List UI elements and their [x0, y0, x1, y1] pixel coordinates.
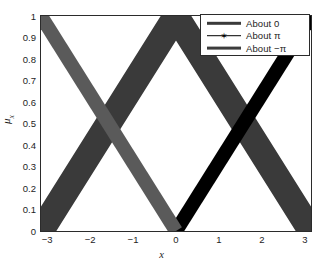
y-tick-label: 0 — [8, 226, 36, 237]
x-tick-label: 0 — [164, 235, 188, 245]
y-axis-label-subscript: x — [7, 115, 16, 118]
legend-line — [207, 22, 241, 24]
legend-item[interactable]: ✶About π — [201, 30, 309, 43]
x-tick-label: −2 — [78, 235, 102, 245]
figure-canvas: 00.10.20.30.40.50.60.70.80.91 −3−2−10123… — [0, 0, 323, 270]
legend-item[interactable]: About −π — [201, 42, 309, 55]
y-tick-label: 0.8 — [8, 54, 36, 65]
y-axis-label-base: μ — [0, 119, 12, 125]
legend-item[interactable]: About 0 — [201, 17, 309, 30]
y-tick-label: 0.7 — [8, 75, 36, 86]
y-tick-label: 1 — [8, 11, 36, 22]
x-tick-label: −1 — [121, 235, 145, 245]
legend-swatch: ✶ — [205, 30, 243, 42]
legend-line — [207, 47, 241, 50]
y-axis-label: μx — [0, 98, 15, 142]
x-tick-label: 1 — [207, 235, 231, 245]
legend-swatch — [205, 42, 243, 54]
chart-legend: About 0✶About πAbout −π — [200, 14, 310, 56]
legend-label: About π — [243, 30, 281, 41]
legend-swatch — [205, 17, 243, 29]
x-tick-label: 2 — [250, 235, 274, 245]
x-axis-label: x — [0, 249, 323, 260]
legend-label: About 0 — [243, 18, 279, 29]
y-tick-label: 0.2 — [8, 183, 36, 194]
y-tick-label: 0.9 — [8, 32, 36, 43]
y-tick-label: 0.1 — [8, 204, 36, 215]
x-tick-label: −3 — [35, 235, 59, 245]
y-tick-label: 0.3 — [8, 161, 36, 172]
x-tick-label: 3 — [293, 235, 317, 245]
legend-label: About −π — [243, 43, 286, 54]
